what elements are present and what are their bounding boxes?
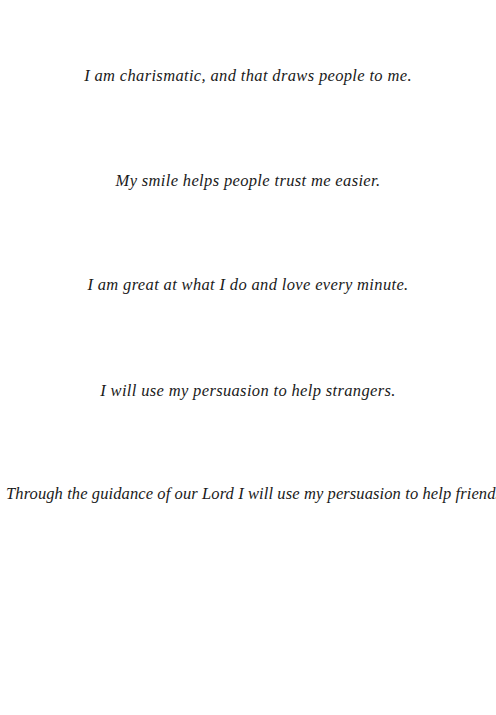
- affirmation-line-4-container: I will use my persuasion to help strange…: [0, 381, 496, 402]
- affirmation-line-5-container: Through the guidance of our Lord I will …: [0, 484, 496, 505]
- affirmation-line-1: I am charismatic, and that draws people …: [6, 66, 490, 87]
- affirmation-line-5: Through the guidance of our Lord I will …: [6, 484, 490, 505]
- affirmation-line-4: I will use my persuasion to help strange…: [6, 381, 490, 402]
- affirmation-line-2: My smile helps people trust me easier.: [6, 171, 490, 192]
- affirmation-line-3-container: I am great at what I do and love every m…: [0, 275, 496, 296]
- affirmation-line-2-container: My smile helps people trust me easier.: [0, 171, 496, 192]
- affirmation-line-3: I am great at what I do and love every m…: [6, 275, 490, 296]
- document-page: I am charismatic, and that draws people …: [0, 0, 496, 715]
- affirmation-line-1-container: I am charismatic, and that draws people …: [0, 66, 496, 87]
